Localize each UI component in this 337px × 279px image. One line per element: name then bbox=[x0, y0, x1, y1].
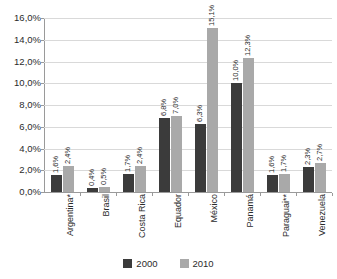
bar-value-label: 10,0% bbox=[232, 60, 240, 81]
bar-value-label: 15,1% bbox=[208, 5, 216, 26]
plot-area: 1,6%2,4%0,4%0,5%1,7%2,4%6,8%7,0%6,3%15,1… bbox=[44, 18, 332, 192]
x-tick-mark bbox=[152, 193, 153, 196]
y-tick-label: 12,0% bbox=[1, 57, 41, 67]
bar-2000[interactable]: 1,7% bbox=[123, 174, 134, 192]
bar-groups: 1,6%2,4%0,4%0,5%1,7%2,4%6,8%7,0%6,3%15,1… bbox=[44, 18, 332, 192]
bar-2000[interactable]: 1,6% bbox=[267, 175, 278, 192]
bar-value-label: 2,7% bbox=[316, 144, 324, 161]
x-tick-mark bbox=[224, 193, 225, 196]
bar-2010[interactable]: 2,4% bbox=[63, 166, 74, 192]
x-tick-mark bbox=[188, 193, 189, 196]
bar-2010[interactable]: 2,7% bbox=[315, 163, 326, 192]
x-tick-label: Venezuela bbox=[318, 194, 327, 236]
y-tick-label: 0,0% bbox=[1, 187, 41, 197]
bar-value-label: 2,4% bbox=[136, 147, 144, 164]
bar-value-label: 6,3% bbox=[196, 104, 204, 121]
bar-2000[interactable]: 0,4% bbox=[87, 188, 98, 192]
bar-2010[interactable]: 12,3% bbox=[243, 58, 254, 192]
x-tick-label: Panamá bbox=[246, 194, 255, 228]
legend: 20002010 bbox=[0, 259, 337, 269]
bar-group: 1,6%1,7% bbox=[267, 18, 290, 192]
legend-swatch bbox=[123, 259, 132, 268]
legend-swatch bbox=[180, 259, 189, 268]
bar-group: 10,0%12,3% bbox=[231, 18, 254, 192]
bar-chart: 16,0%14,0%12,0%10,0%8,0%6,0%4,0%2,0%0,0%… bbox=[0, 0, 337, 279]
y-tick-label: 16,0% bbox=[1, 13, 41, 23]
bar-2000[interactable]: 6,3% bbox=[195, 124, 206, 193]
bar-value-label: 1,6% bbox=[52, 156, 60, 173]
legend-label: 2010 bbox=[193, 259, 214, 269]
bar-2000[interactable]: 6,8% bbox=[159, 118, 170, 192]
legend-item-2000[interactable]: 2000 bbox=[123, 259, 157, 269]
bar-2000[interactable]: 2,3% bbox=[303, 167, 314, 192]
bar-value-label: 0,4% bbox=[88, 169, 96, 186]
bar-value-label: 1,7% bbox=[124, 154, 132, 171]
bar-value-label: 1,7% bbox=[280, 154, 288, 171]
x-tick-mark bbox=[332, 193, 333, 196]
y-tick-label: 8,0% bbox=[1, 100, 41, 110]
y-tick-label: 4,0% bbox=[1, 144, 41, 154]
x-tick-label: Paraguai** bbox=[282, 194, 291, 237]
bar-value-label: 1,6% bbox=[268, 156, 276, 173]
bar-2000[interactable]: 10,0% bbox=[231, 83, 242, 192]
x-tick-label: Equador bbox=[174, 194, 183, 228]
bar-group: 0,4%0,5% bbox=[87, 18, 110, 192]
bar-group: 1,7%2,4% bbox=[123, 18, 146, 192]
legend-label: 2000 bbox=[136, 259, 157, 269]
y-tick-label: 10,0% bbox=[1, 78, 41, 88]
bar-2000[interactable]: 1,6% bbox=[51, 175, 62, 192]
bar-2010[interactable]: 1,7% bbox=[279, 174, 290, 192]
x-tick-mark bbox=[260, 193, 261, 196]
bar-2010[interactable]: 15,1% bbox=[207, 28, 218, 192]
bar-group: 1,6%2,4% bbox=[51, 18, 74, 192]
bar-group: 6,3%15,1% bbox=[195, 18, 218, 192]
bar-2010[interactable]: 7,0% bbox=[171, 116, 182, 192]
x-tick-label: Argentina* bbox=[66, 194, 75, 236]
bar-2010[interactable]: 0,5% bbox=[99, 187, 110, 192]
x-tick-mark bbox=[116, 193, 117, 196]
bar-value-label: 0,5% bbox=[100, 167, 108, 184]
x-tick-label: México bbox=[210, 194, 219, 223]
legend-item-2010[interactable]: 2010 bbox=[180, 259, 214, 269]
x-axis-labels: Argentina*BrasilCosta RicaEquadorMéxicoP… bbox=[44, 194, 332, 252]
bar-2010[interactable]: 2,4% bbox=[135, 166, 146, 192]
y-tick-label: 6,0% bbox=[1, 122, 41, 132]
bar-group: 6,8%7,0% bbox=[159, 18, 182, 192]
x-tick-mark bbox=[80, 193, 81, 196]
x-tick-mark bbox=[296, 193, 297, 196]
bar-group: 2,3%2,7% bbox=[303, 18, 326, 192]
y-tick-label: 2,0% bbox=[1, 165, 41, 175]
x-tick-label: Brasil bbox=[102, 194, 111, 217]
bar-value-label: 2,3% bbox=[304, 148, 312, 165]
y-tick-label: 14,0% bbox=[1, 35, 41, 45]
y-axis: 16,0%14,0%12,0%10,0%8,0%6,0%4,0%2,0%0,0% bbox=[0, 0, 41, 279]
bar-value-label: 2,4% bbox=[64, 147, 72, 164]
bar-value-label: 6,8% bbox=[160, 99, 168, 116]
bar-value-label: 7,0% bbox=[172, 97, 180, 114]
x-tick-label: Costa Rica bbox=[138, 194, 147, 238]
bar-value-label: 12,3% bbox=[244, 35, 252, 56]
